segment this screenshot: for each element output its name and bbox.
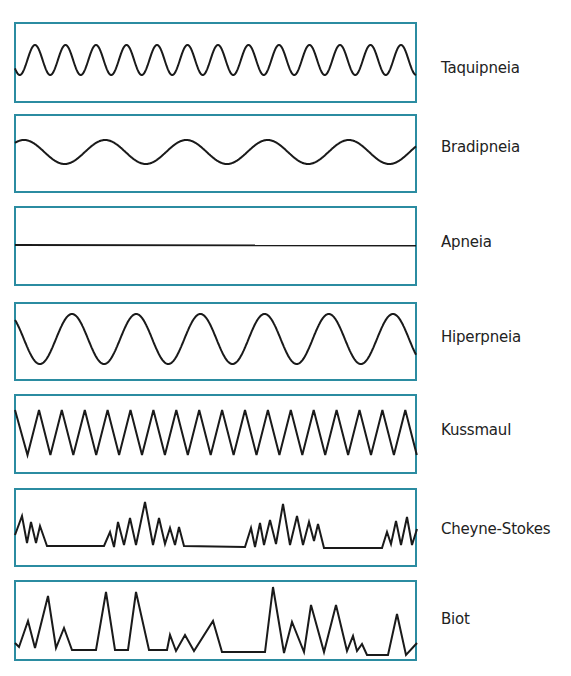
waveform-apneia: [14, 206, 420, 286]
panel-apneia: [14, 206, 417, 286]
label-cheyne-stokes: Cheyne-Stokes: [441, 520, 550, 538]
waveform-kussmaul: [14, 394, 420, 474]
panel-bradipneia: [14, 114, 417, 193]
label-bradipneia: Bradipneia: [441, 138, 520, 156]
label-apneia: Apneia: [441, 233, 492, 251]
label-taquipneia: Taquipneia: [441, 59, 520, 77]
panel-cheyne-stokes: [14, 488, 417, 567]
panel-biot: [14, 580, 417, 661]
waveform-hiperpneia: [14, 302, 420, 381]
panel-hiperpneia: [14, 302, 417, 381]
label-biot: Biot: [441, 610, 470, 628]
waveform-cheyne-stokes: [14, 488, 420, 567]
waveform-bradipneia: [14, 114, 420, 193]
label-kussmaul: Kussmaul: [441, 421, 511, 439]
label-hiperpneia: Hiperpneia: [441, 328, 521, 346]
panel-kussmaul: [14, 394, 417, 474]
panel-taquipneia: [14, 22, 417, 103]
waveform-taquipneia: [14, 22, 420, 103]
waveform-biot: [14, 580, 420, 661]
